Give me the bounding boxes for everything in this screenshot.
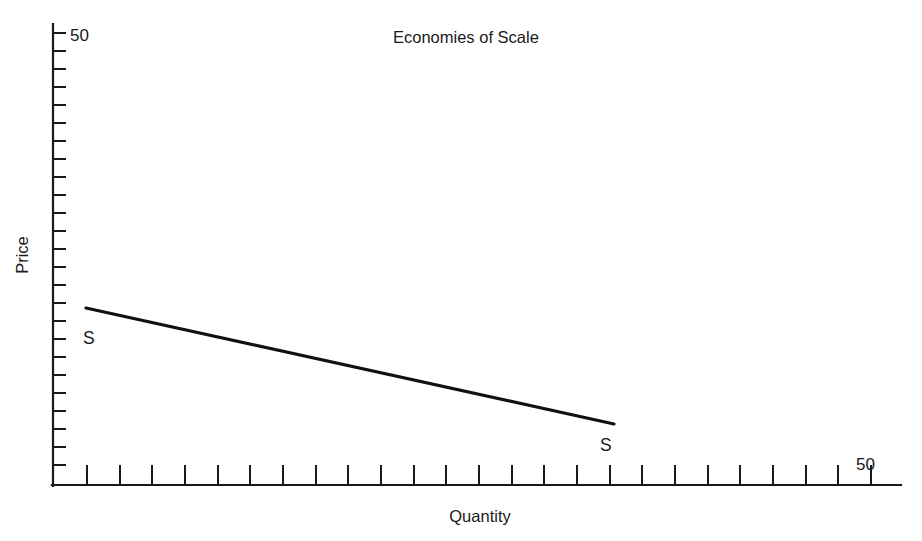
economies-of-scale-chart: Economies of Scale 50 50 Price Quantity …	[0, 0, 922, 541]
supply-curve-end-label: S	[600, 435, 612, 455]
x-axis-max-tick-label: 50	[856, 455, 875, 474]
supply-curve	[86, 308, 614, 424]
x-axis-label: Quantity	[449, 507, 511, 525]
x-axis-ticks	[87, 465, 871, 485]
axes-group	[52, 24, 901, 486]
y-axis-ticks	[53, 33, 66, 465]
chart-page: Economies of Scale 50 50 Price Quantity …	[0, 0, 922, 541]
y-axis-max-tick-label: 50	[70, 26, 89, 45]
y-axis-label: Price	[13, 236, 31, 274]
supply-curve-start-label: S	[83, 328, 95, 348]
chart-title: Economies of Scale	[393, 28, 539, 46]
